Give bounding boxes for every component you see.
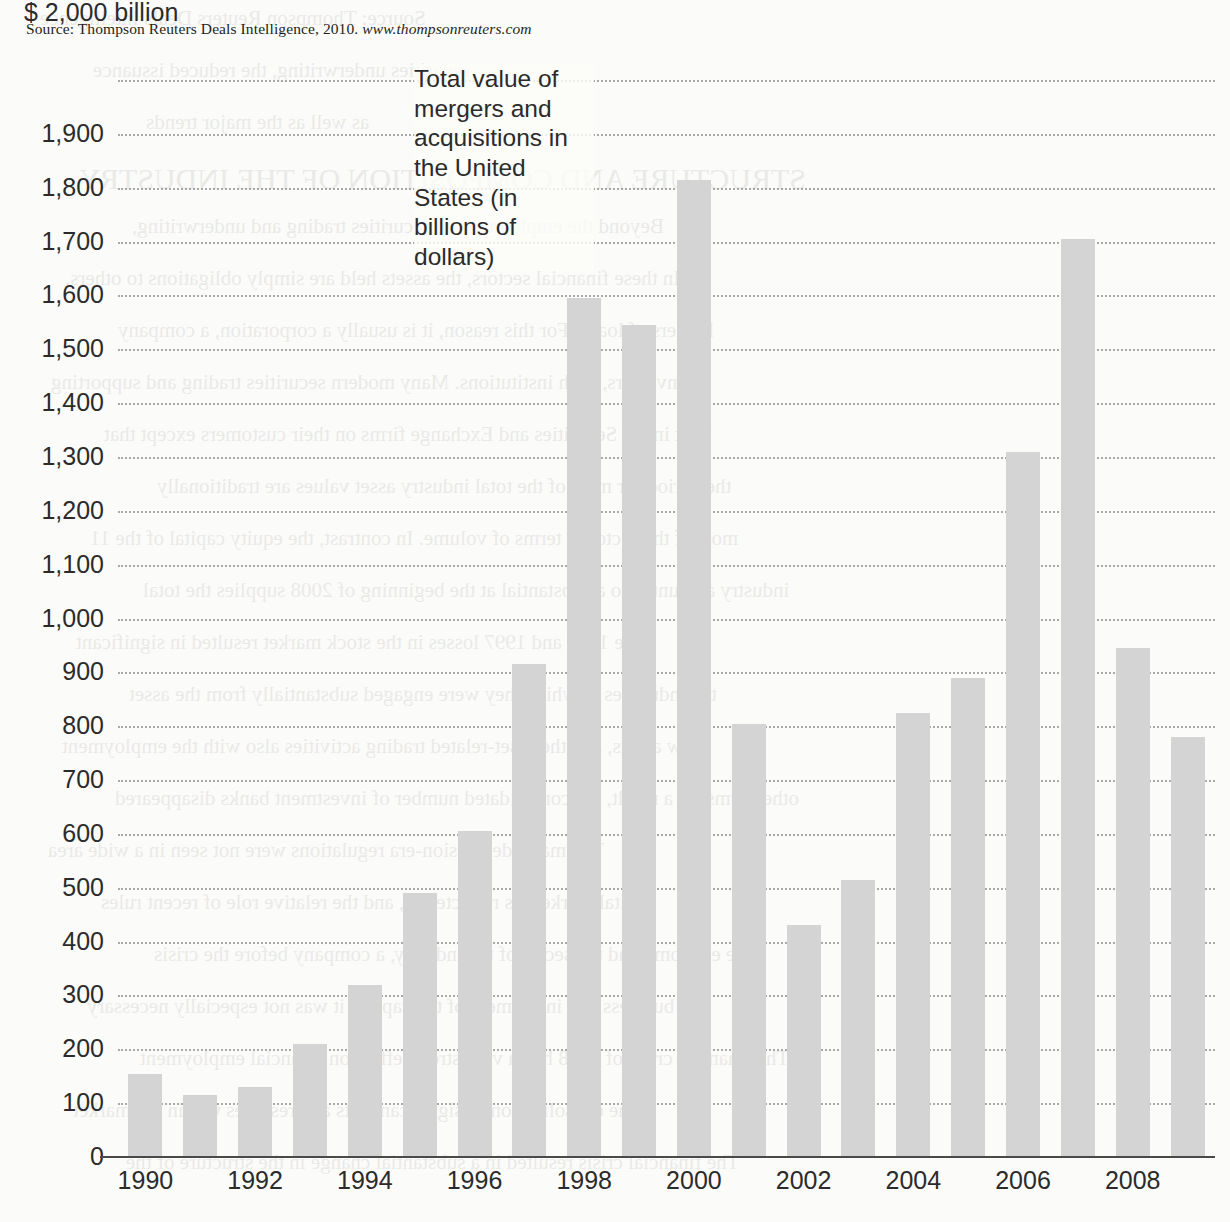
y-axis-label-200: 200 bbox=[62, 1036, 104, 1061]
bar-2003 bbox=[841, 880, 875, 1157]
bar-1991 bbox=[183, 1095, 217, 1157]
gridline-200 bbox=[118, 1049, 1215, 1051]
x-axis-label-1996: 1996 bbox=[435, 1168, 515, 1193]
x-axis-label-2006: 2006 bbox=[983, 1168, 1063, 1193]
gridline-1200 bbox=[118, 511, 1215, 513]
x-axis-line bbox=[100, 1156, 1215, 1158]
y-axis-label-1000: 1,000 bbox=[41, 606, 104, 631]
source-note-url: www.thompsonreuters.com bbox=[362, 20, 531, 37]
y-axis-label-300: 300 bbox=[62, 982, 104, 1007]
gridline-1300 bbox=[118, 457, 1215, 459]
source-note: Source: Thompson Reuters Deals Intellige… bbox=[26, 20, 532, 38]
gridline-1000 bbox=[118, 619, 1215, 621]
y-axis-label-1400: 1,400 bbox=[41, 390, 104, 415]
gridline-1800 bbox=[118, 188, 1215, 190]
y-axis-label-1900: 1,900 bbox=[41, 121, 104, 146]
y-axis-label-900: 900 bbox=[62, 659, 104, 684]
bar-2006 bbox=[1006, 452, 1040, 1157]
gridline-600 bbox=[118, 834, 1215, 836]
x-axis-label-2000: 2000 bbox=[654, 1168, 734, 1193]
bar-2000 bbox=[677, 180, 711, 1157]
bar-1992 bbox=[238, 1087, 272, 1157]
bar-2005 bbox=[951, 678, 985, 1157]
source-note-prefix: Source: Thompson Reuters Deals Intellige… bbox=[26, 20, 358, 37]
gridline-400 bbox=[118, 942, 1215, 944]
gridline-500 bbox=[118, 888, 1215, 890]
bar-2007 bbox=[1061, 239, 1095, 1157]
y-axis-label-400: 400 bbox=[62, 929, 104, 954]
gridline-100 bbox=[118, 1103, 1215, 1105]
bar-1996 bbox=[458, 831, 492, 1157]
bar-2009 bbox=[1171, 737, 1205, 1157]
gridline-2000 bbox=[118, 80, 1215, 82]
y-axis-label-1100: 1,100 bbox=[41, 552, 104, 577]
bar-2001 bbox=[732, 724, 766, 1157]
bar-1994 bbox=[348, 985, 382, 1157]
x-axis-label-1998: 1998 bbox=[544, 1168, 624, 1193]
y-axis-label-1800: 1,800 bbox=[41, 175, 104, 200]
bar-2002 bbox=[787, 925, 821, 1157]
gridline-1600 bbox=[118, 295, 1215, 297]
gridline-1100 bbox=[118, 565, 1215, 567]
bar-1993 bbox=[293, 1044, 327, 1157]
x-axis-label-1990: 1990 bbox=[105, 1168, 185, 1193]
x-axis-label-1992: 1992 bbox=[215, 1168, 295, 1193]
gridline-800 bbox=[118, 726, 1215, 728]
bar-2004 bbox=[896, 713, 930, 1157]
bar-1998 bbox=[567, 298, 601, 1157]
x-axis-label-2004: 2004 bbox=[873, 1168, 953, 1193]
gridline-1900 bbox=[118, 134, 1215, 136]
gridline-1400 bbox=[118, 403, 1215, 405]
bar-2008 bbox=[1116, 648, 1150, 1157]
y-axis-label-1300: 1,300 bbox=[41, 444, 104, 469]
gridline-700 bbox=[118, 780, 1215, 782]
y-axis-label-1700: 1,700 bbox=[41, 229, 104, 254]
y-axis-label-1200: 1,200 bbox=[41, 498, 104, 523]
y-axis-label-800: 800 bbox=[62, 713, 104, 738]
x-axis-label-2008: 2008 bbox=[1093, 1168, 1173, 1193]
gridline-1500 bbox=[118, 349, 1215, 351]
bar-1990 bbox=[128, 1074, 162, 1157]
ma-value-bar-chart: $ 2,000 billion 1,9001,8001,7001,6001,50… bbox=[0, 0, 1230, 1222]
x-axis-label-1994: 1994 bbox=[325, 1168, 405, 1193]
y-axis-label-700: 700 bbox=[62, 767, 104, 792]
chart-annotation: Total value of mergers and acquisitions … bbox=[414, 64, 594, 271]
y-axis-label-1600: 1,600 bbox=[41, 282, 104, 307]
bar-1999 bbox=[622, 325, 656, 1157]
y-axis-label-1500: 1,500 bbox=[41, 336, 104, 361]
gridline-1700 bbox=[118, 242, 1215, 244]
y-axis-label-100: 100 bbox=[62, 1090, 104, 1115]
gridline-900 bbox=[118, 672, 1215, 674]
gridline-300 bbox=[118, 995, 1215, 997]
bar-1997 bbox=[512, 664, 546, 1157]
y-axis-label-600: 600 bbox=[62, 821, 104, 846]
x-axis-label-2002: 2002 bbox=[764, 1168, 844, 1193]
plot-area bbox=[118, 80, 1215, 1157]
bar-1995 bbox=[403, 893, 437, 1157]
y-axis-label-500: 500 bbox=[62, 875, 104, 900]
